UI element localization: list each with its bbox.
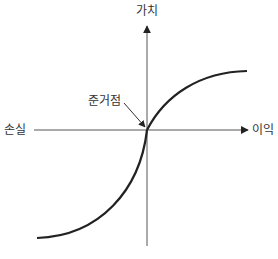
y-axis-label: 가치 [136,4,158,18]
gain-curve [147,71,247,130]
value-function-diagram [0,0,278,259]
loss-curve [37,130,147,238]
x-axis-positive-label: 이익 [252,123,274,137]
reference-point-label: 준거점 [88,94,121,108]
x-axis-negative-label: 손실 [4,123,26,137]
reference-point-pointer [124,103,145,127]
